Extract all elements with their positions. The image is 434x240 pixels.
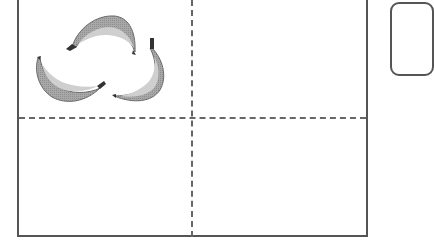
banana-icon bbox=[37, 56, 106, 101]
banana-icon bbox=[112, 38, 164, 101]
side-answer-box bbox=[390, 2, 434, 76]
banana-icon bbox=[66, 16, 136, 55]
